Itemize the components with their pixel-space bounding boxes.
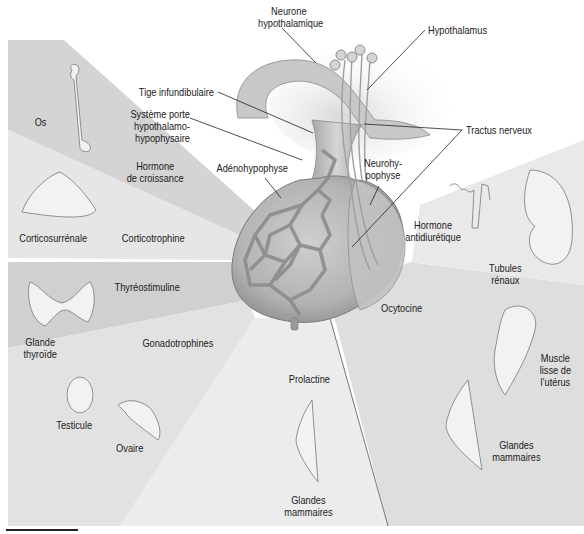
label-hormone-antidiuretique: Hormone antidiurétique: [404, 219, 462, 243]
label-corticotrophine: Corticotrophine: [118, 232, 188, 244]
label-neurone-hypothalamique: Neurone hypothalamique: [258, 5, 320, 29]
label-tige-infundibulaire: Tige infundibulaire: [122, 86, 214, 98]
label-hypothalamus: Hypothalamus: [428, 24, 487, 36]
label-ovaire: Ovaire: [113, 442, 146, 454]
label-muscle-uterus: Muscle lisse de l’utérus: [536, 352, 575, 388]
label-corticosurrenale: Corticosurrénale: [18, 232, 88, 244]
label-hormone-croissance: Hormone de croissance: [120, 160, 190, 184]
testicle: [67, 377, 93, 413]
label-systeme-porte: Système porte hypothalamo- hypophysaire: [120, 108, 190, 144]
label-glande-thyroide: Glande thyroïde: [20, 336, 60, 360]
label-os: Os: [30, 116, 51, 128]
label-tubules-renaux: Tubules rénaux: [486, 262, 525, 286]
label-testicule: Testicule: [54, 419, 94, 431]
label-neurohypophyse: Neurohy- pophyse: [361, 157, 405, 181]
label-tractus-nerveux: Tractus nerveux: [466, 124, 532, 136]
scale-bar: [6, 529, 78, 531]
pituitary-hormone-diagram: Neurone hypothalamique Hypothalamus Tige…: [0, 0, 584, 534]
label-glandes-mammaires-ocytocine: Glandes mammaires: [490, 439, 543, 463]
label-ocytocine: Ocytocine: [377, 302, 426, 314]
label-gonadotrophines: Gonadotrophines: [140, 337, 216, 349]
label-prolactine: Prolactine: [283, 373, 336, 385]
label-glandes-mammaires-prolactine: Glandes mammaires: [282, 494, 335, 518]
label-adenohypophyse: Adénohypophyse: [210, 162, 294, 174]
label-thyreostimuline: Thyréostimuline: [112, 281, 182, 293]
